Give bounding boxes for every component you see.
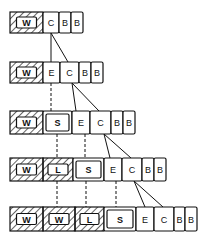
cell-w: W xyxy=(10,207,43,231)
cell-b: B xyxy=(79,62,91,83)
row-5: WWLSECBB xyxy=(10,207,197,231)
cell-s: S xyxy=(43,111,72,134)
cell-label: L xyxy=(87,215,93,225)
cell-s: S xyxy=(73,158,104,181)
cell-label: C xyxy=(66,68,73,78)
solid-connector xyxy=(134,181,145,207)
cell-b: B xyxy=(154,158,166,181)
solid-connector xyxy=(51,33,68,62)
cell-label: E xyxy=(142,215,148,225)
cell-c: C xyxy=(154,207,174,231)
cell-label: W xyxy=(22,18,31,28)
cell-label: C xyxy=(161,215,168,225)
cell-b: B xyxy=(123,111,135,134)
cell-label: B xyxy=(114,118,120,128)
cell-b: B xyxy=(185,207,197,231)
cell-label: E xyxy=(48,68,54,78)
cell-c: C xyxy=(90,111,111,134)
cell-label: B xyxy=(188,215,194,225)
cell-label: S xyxy=(85,165,91,175)
cell-label: B xyxy=(145,165,151,175)
cell-l: L xyxy=(43,158,73,181)
cell-w: W xyxy=(10,12,43,33)
cell-label: B xyxy=(74,18,80,28)
cell-label: W xyxy=(55,215,64,225)
cell-e: E xyxy=(72,111,90,134)
solid-connector xyxy=(104,134,131,158)
cell-label: W xyxy=(22,165,31,175)
cell-label: E xyxy=(78,118,84,128)
solid-connector xyxy=(134,181,163,207)
cell-b: B xyxy=(174,207,185,231)
cell-e: E xyxy=(104,158,122,181)
cell-s: S xyxy=(104,207,136,231)
row-4: WLSECBB xyxy=(10,158,166,181)
cell-c: C xyxy=(60,62,79,83)
cell-label: W xyxy=(22,68,31,78)
cell-w: W xyxy=(10,158,43,181)
cell-c: C xyxy=(43,12,59,33)
solid-connector xyxy=(72,83,99,111)
cell-label: B xyxy=(126,118,132,128)
row-3: WSECBB xyxy=(10,111,135,134)
cell-w: W xyxy=(10,111,43,134)
cell-row-diagram: WCBBWECBBWSECBBWLSECBBWWLSECBB xyxy=(0,0,208,245)
cell-label: B xyxy=(82,68,88,78)
cell-label: C xyxy=(48,18,55,28)
cell-b: B xyxy=(91,62,103,83)
cell-label: S xyxy=(117,215,123,225)
cell-b: B xyxy=(59,12,71,33)
row-2: WECBB xyxy=(10,62,103,83)
cell-label: C xyxy=(129,165,136,175)
cell-w: W xyxy=(10,62,43,83)
cell-b: B xyxy=(142,158,154,181)
cell-b: B xyxy=(111,111,123,134)
cell-label: B xyxy=(62,18,68,28)
cell-label: E xyxy=(110,165,116,175)
cell-label: C xyxy=(97,118,104,128)
cell-label: W xyxy=(22,215,31,225)
cell-label: B xyxy=(176,215,182,225)
cell-w: W xyxy=(43,207,75,231)
cell-label: B xyxy=(157,165,163,175)
cell-rows: WCBBWECBBWSECBBWLSECBBWWLSECBB xyxy=(10,12,197,231)
cell-c: C xyxy=(122,158,142,181)
solid-connector xyxy=(104,134,110,158)
cell-label: B xyxy=(94,68,100,78)
cell-label: W xyxy=(22,118,31,128)
row-1: WCBB xyxy=(10,12,83,33)
cell-l: L xyxy=(75,207,104,231)
cell-b: B xyxy=(71,12,83,33)
cell-e: E xyxy=(136,207,154,231)
cell-label: L xyxy=(55,165,61,175)
cell-label: S xyxy=(54,118,60,128)
cell-e: E xyxy=(43,62,60,83)
